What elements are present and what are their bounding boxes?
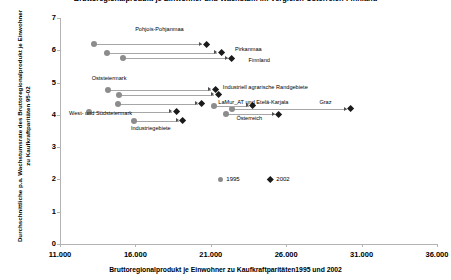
x-tick-mark [211,244,212,247]
y-tick-label: 7 [44,13,56,22]
x-axis-label: Bruttoregionalprodukt je Einwohner zu Ka… [0,266,451,273]
x-tick-label: 36.000 [415,250,451,259]
chart-title: Bruttoregionalprodukt je Einwohner und W… [0,0,451,3]
chart-root: Bruttoregionalprodukt je Einwohner und W… [0,0,451,280]
y-axis-line [60,18,61,244]
x-tick-label: 31.000 [340,250,384,259]
connector-line [94,44,202,45]
y-tick-mark [57,212,60,213]
connector-line [108,90,211,91]
y-axis-label: Durchschnittliche p.a. Wachstumsrate des… [16,6,32,246]
data-point-1995 [116,92,122,98]
x-tick-mark [362,244,363,247]
y-tick-mark [57,50,60,51]
x-tick-label: 16.000 [113,250,157,259]
connector-line [123,58,228,59]
y-tick-mark [57,83,60,84]
y-tick-label: 1 [44,207,56,216]
chart-legend: 19952002 [218,176,368,188]
point-label: Graz [319,99,331,105]
y-tick-label: 2 [44,174,56,183]
data-point-2002 [275,111,282,118]
point-label: Pohjois-Pohjanmaa [60,26,184,32]
data-point-2002 [203,41,210,48]
point-label: Pirkanmaa [235,46,262,52]
data-point-1995 [211,103,217,109]
x-tick-mark [135,244,136,247]
x-tick-mark [286,244,287,247]
y-tick-label: 5 [44,78,56,87]
point-label: Österreich [236,115,262,121]
legend-label: 1995 [226,176,239,182]
y-tick-label: 3 [44,142,56,151]
y-tick-label: 4 [44,110,56,119]
data-point-1995 [115,101,121,107]
data-point-1995 [229,106,235,112]
plot-area: 01234567 11.00016.00021.00026.00031.0003… [60,18,437,244]
data-point-1995 [120,55,126,61]
data-point-2002 [179,117,186,124]
x-tick-label: 21.000 [189,250,233,259]
y-tick-mark [57,115,60,116]
x-tick-label: 26.000 [264,250,308,259]
point-label: LaMur_AT und Etelä-Karjala [218,99,288,105]
point-label: Industriegebiete [131,125,171,131]
connector-line [118,104,198,105]
x-tick-mark [437,244,438,247]
x-axis-line [60,244,437,245]
data-point-1995 [223,111,229,117]
point-label: West- und Südsteiermark [69,110,132,116]
data-point-2002 [218,49,225,56]
point-label: Finnland [249,57,270,63]
data-point-1995 [91,41,97,47]
connector-line [232,109,347,110]
connector-line [134,121,179,122]
point-label: Industriell agrarische Randgebiete [223,84,308,90]
data-point-1995 [104,50,110,56]
data-point-2002 [228,55,235,62]
data-point-2002 [172,108,179,115]
legend-circle-icon [218,177,223,182]
data-point-2002 [198,100,205,107]
legend-diamond-icon [267,176,273,182]
y-tick-label: 6 [44,45,56,54]
connector-line [119,95,215,96]
data-point-1995 [131,118,137,124]
x-tick-label: 11.000 [38,250,82,259]
point-label: Oststeiermark [92,75,127,81]
connector-line [107,53,218,54]
data-point-2002 [347,105,354,112]
x-tick-mark [60,244,61,247]
y-tick-mark [57,179,60,180]
y-tick-label: 0 [44,239,56,248]
legend-label: 2002 [276,176,289,182]
data-point-2002 [215,91,222,98]
y-tick-mark [57,18,60,19]
y-tick-mark [57,147,60,148]
connector-line [214,106,249,107]
data-point-1995 [105,87,111,93]
